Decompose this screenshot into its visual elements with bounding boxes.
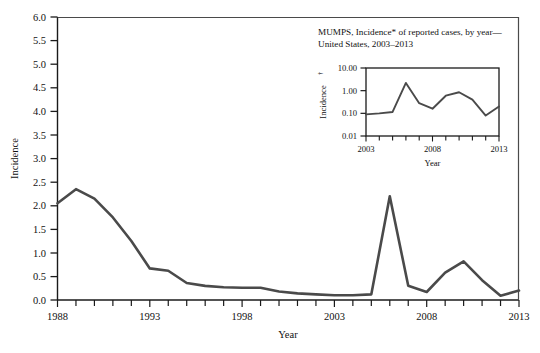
main-y-tick-label: 4.0 xyxy=(33,106,46,117)
main-y-tick-label: 6.0 xyxy=(33,12,46,23)
main-y-tick: 2.0 xyxy=(33,200,58,211)
inset-x-tick-labels: 2003 2008 2013 xyxy=(357,144,507,154)
inset-y-tick-label: 10.00 xyxy=(338,63,357,73)
main-y-tick: 4.5 xyxy=(33,82,58,93)
main-y-tick-label: 3.0 xyxy=(33,153,46,164)
main-y-axis-title: Incidence xyxy=(9,138,20,179)
main-x-tick-label: 2013 xyxy=(509,311,530,322)
inset-y-axis-title-group: Incidence † xyxy=(316,72,328,119)
inset-y-tick: 0.01 xyxy=(342,131,366,141)
main-y-tick: 3.5 xyxy=(33,130,58,141)
main-y-tick: 2.5 xyxy=(33,177,58,188)
main-x-tick-labels: 1988 1993 1998 2003 2008 2013 xyxy=(47,311,530,322)
main-y-tick: 6.0 xyxy=(33,12,58,23)
inset-chart: MUMPS, Incidence* of reported cases, by … xyxy=(316,27,508,168)
main-chart: 6.0 5.5 5.0 4.5 4.0 xyxy=(9,12,530,340)
inset-y-tick-label: 0.10 xyxy=(342,108,357,118)
main-y-tick: 0.0 xyxy=(33,295,58,306)
main-x-axis-title: Year xyxy=(278,329,298,340)
figure-root: 6.0 5.5 5.0 4.5 4.0 xyxy=(0,0,540,353)
main-y-tick-label: 1.5 xyxy=(33,224,46,235)
main-x-tick-label: 2008 xyxy=(416,311,437,322)
main-y-tick-label: 0.0 xyxy=(33,295,46,306)
main-y-tick-label: 3.5 xyxy=(33,130,46,141)
main-y-tick: 1.5 xyxy=(33,224,58,235)
inset-title-line-2: United States, 2003–2013 xyxy=(318,39,414,49)
main-x-tick-label: 1998 xyxy=(232,311,253,322)
main-y-tick: 4.0 xyxy=(33,106,58,117)
inset-y-tick: 1.00 xyxy=(342,86,366,96)
main-y-tick-label: 5.0 xyxy=(33,59,46,70)
inset-x-tick-label: 2013 xyxy=(490,144,507,154)
inset-x-axis-title: Year xyxy=(425,158,441,168)
inset-x-tick-label: 2008 xyxy=(424,144,441,154)
main-y-tick-label: 2.0 xyxy=(33,200,46,211)
main-x-ticks xyxy=(58,300,520,307)
main-y-tick-label: 0.5 xyxy=(33,271,46,282)
main-y-tick-label: 2.5 xyxy=(33,177,46,188)
inset-y-ticks: 10.00 1.00 0.10 0.01 xyxy=(338,63,366,141)
main-axes xyxy=(58,17,520,300)
inset-y-tick-label: 1.00 xyxy=(342,86,357,96)
inset-y-tick: 0.10 xyxy=(342,108,366,118)
main-y-tick-label: 4.5 xyxy=(33,82,46,93)
inset-x-tick-label: 2003 xyxy=(357,144,374,154)
main-x-tick-label: 1988 xyxy=(47,311,68,322)
main-data-line xyxy=(58,189,520,296)
inset-y-axis-title: Incidence xyxy=(318,85,328,119)
main-y-tick-label: 5.5 xyxy=(33,35,46,46)
inset-plot-frame xyxy=(366,68,499,136)
inset-y-tick: 10.00 xyxy=(338,63,366,73)
main-x-tick-label: 2003 xyxy=(324,311,345,322)
main-y-tick: 3.0 xyxy=(33,153,58,164)
main-y-tick: 0.5 xyxy=(33,271,58,282)
inset-x-ticks xyxy=(366,136,499,142)
main-y-tick: 1.0 xyxy=(33,248,58,259)
inset-title-line-1: MUMPS, Incidence* of reported cases, by … xyxy=(318,27,503,37)
inset-y-axis-title-superscript: † xyxy=(316,72,323,75)
main-x-tick-label: 1993 xyxy=(139,311,160,322)
main-y-tick: 5.0 xyxy=(33,59,58,70)
inset-data-line xyxy=(366,83,499,116)
main-y-tick: 5.5 xyxy=(33,35,58,46)
mumps-incidence-figure: 6.0 5.5 5.0 4.5 4.0 xyxy=(0,0,540,353)
main-y-tick-label: 1.0 xyxy=(33,248,46,259)
inset-y-tick-label: 0.01 xyxy=(342,131,357,141)
main-y-ticks: 6.0 5.5 5.0 4.5 4.0 xyxy=(33,12,58,306)
